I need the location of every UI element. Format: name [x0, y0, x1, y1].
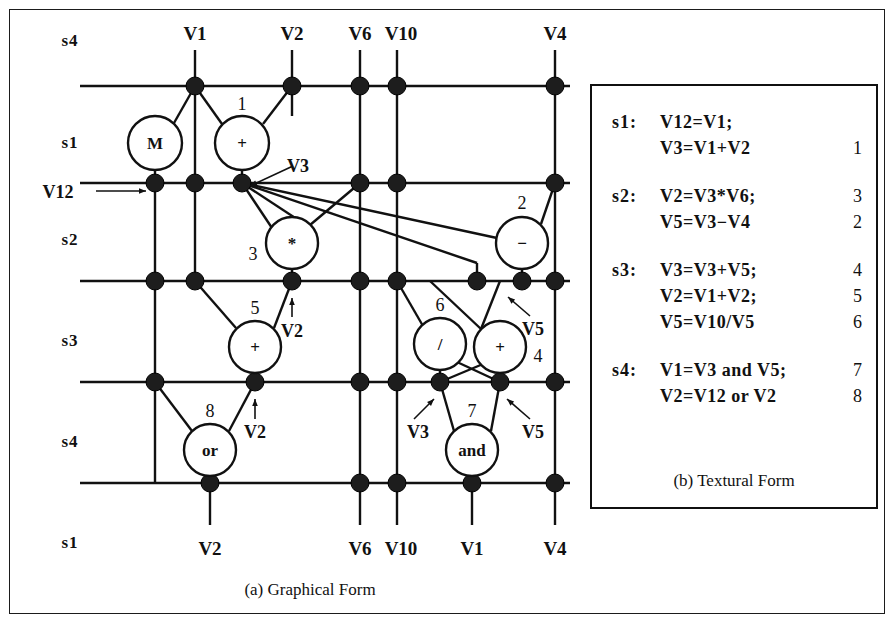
code-index-label: 6 [836, 312, 862, 333]
code-index-label: 7 [836, 360, 862, 381]
code-row: V3=V1+V21 [612, 138, 862, 164]
code-row: s3:V3=V3+V5;4 [612, 260, 862, 286]
operator-node[interactable]: and7 [446, 401, 498, 476]
code-index-label: 2 [836, 212, 862, 233]
top-column-label: V10 [385, 23, 418, 44]
code-row: s2:V2=V3*V6;3 [612, 186, 862, 212]
variable-annotation-label: V5 [522, 422, 544, 442]
bottom-column-label: V4 [543, 538, 567, 559]
code-statement: V3=V3+V5; [660, 260, 836, 281]
code-statement: V12=V1; [660, 112, 836, 133]
operator-symbol: + [250, 338, 260, 357]
stage-label-layer: s4s1s2s3s4s1 [61, 31, 78, 552]
code-group: s1:V12=V1;V3=V1+V21 [612, 112, 862, 164]
operator-symbol: + [495, 338, 505, 357]
bottom-column-label: V2 [198, 538, 221, 559]
code-listing: s1:V12=V1;V3=V1+V21s2:V2=V3*V6;3V5=V3−V4… [612, 112, 862, 434]
top-column-label: V6 [348, 23, 371, 44]
caption-textural-form: (b) Textural Form [592, 471, 876, 491]
operator-symbol: / [437, 335, 443, 354]
code-statement: V3=V1+V2 [660, 138, 836, 159]
operator-index-label: 2 [518, 193, 527, 213]
stage-label: s1 [61, 533, 78, 552]
code-index-label: 5 [836, 286, 862, 307]
top-column-label: V2 [280, 23, 303, 44]
variable-annotation-label: V12 [43, 182, 74, 202]
code-row: V2=V12 or V28 [612, 386, 862, 412]
operator-index-label: 5 [251, 298, 260, 318]
operator-symbol: + [237, 134, 247, 153]
code-index-label: 8 [836, 386, 862, 407]
operator-symbol: − [517, 234, 527, 253]
code-statement: V2=V1+V2; [660, 286, 836, 307]
top-column-label: V1 [183, 23, 206, 44]
code-stage-label: s1: [612, 112, 660, 133]
variable-annotation: V3 [407, 399, 434, 442]
bottom-column-label: V1 [460, 538, 483, 559]
code-statement: V2=V3*V6; [660, 186, 836, 207]
variable-annotation-label: V2 [281, 321, 303, 341]
operator-index-label: 3 [249, 244, 258, 264]
stage-label: s3 [61, 331, 78, 350]
code-statement: V5=V3−V4 [660, 212, 836, 233]
code-row: V5=V10/V56 [612, 312, 862, 338]
code-group: s2:V2=V3*V6;3V5=V3−V42 [612, 186, 862, 238]
code-stage-label: s3: [612, 260, 660, 281]
operator-index-label: 8 [206, 401, 215, 421]
variable-annotation-label: V5 [522, 319, 544, 339]
caption-graphical-form: (a) Graphical Form [244, 580, 375, 599]
bottom-column-label: V10 [385, 538, 418, 559]
operator-node[interactable]: M [128, 116, 182, 170]
top-column-label: V4 [543, 23, 567, 44]
top-column-label-layer: V1V2V6V10V4 [183, 23, 567, 44]
operator-symbol: * [288, 234, 297, 253]
code-statement: V5=V10/V5 [660, 312, 836, 333]
bottom-column-label-layer: V2V6V10V1V4 [198, 538, 567, 559]
operator-node[interactable]: +1 [215, 94, 269, 170]
operator-index-label: 6 [436, 295, 445, 315]
stage-label: s1 [61, 133, 78, 152]
figure-frame: M+1*3−2+5/6+4or8and7 V12V3V2V5V2V3V5 V1V… [9, 9, 885, 614]
variable-annotation-label: V2 [244, 422, 266, 442]
code-stage-label: s4: [612, 360, 660, 381]
operator-index-label: 1 [238, 94, 247, 114]
stage-label: s4 [61, 31, 78, 50]
code-row: V5=V3−V42 [612, 212, 862, 238]
operator-node[interactable]: −2 [496, 193, 548, 269]
annotation-arrowhead [252, 399, 258, 406]
code-row: V2=V1+V2;5 [612, 286, 862, 312]
code-group: s3:V3=V3+V5;4V2=V1+V2;5V5=V10/V56 [612, 260, 862, 338]
figure-page: M+1*3−2+5/6+4or8and7 V12V3V2V5V2V3V5 V1V… [0, 0, 894, 623]
code-statement: V1=V3 and V5; [660, 360, 836, 381]
variable-annotation-label: V3 [407, 422, 429, 442]
operator-node[interactable]: *3 [249, 217, 319, 269]
operator-node[interactable]: or8 [184, 401, 236, 476]
operator-symbol: M [147, 134, 163, 153]
operator-index-label: 7 [468, 401, 477, 421]
variable-annotation: V2 [244, 399, 266, 442]
code-statement: V2=V12 or V2 [660, 386, 836, 407]
code-index-label: 3 [836, 186, 862, 207]
code-stage-label: s2: [612, 186, 660, 207]
code-group: s4:V1=V3 and V5;7V2=V12 or V28 [612, 360, 862, 412]
operator-symbol: or [202, 441, 219, 460]
textual-form-panel: s1:V12=V1;V3=V1+V21s2:V2=V3*V6;3V5=V3−V4… [590, 84, 878, 509]
variable-annotation: V5 [507, 399, 544, 442]
operator-symbol: and [458, 441, 486, 460]
code-row: s4:V1=V3 and V5;7 [612, 360, 862, 386]
code-index-label: 4 [836, 260, 862, 281]
stage-label: s4 [61, 432, 78, 451]
bottom-column-label: V6 [348, 538, 371, 559]
annotation-arrowhead [139, 188, 146, 194]
operator-index-label: 4 [534, 346, 543, 366]
stage-label: s2 [61, 230, 78, 249]
code-row: s1:V12=V1; [612, 112, 862, 138]
code-index-label: 1 [836, 138, 862, 159]
variable-annotation: V12 [43, 182, 147, 202]
variable-annotation-layer: V12V3V2V5V2V3V5 [43, 156, 545, 442]
variable-annotation-label: V3 [287, 156, 309, 176]
annotation-arrowhead [289, 298, 295, 305]
operator-node[interactable]: +5 [229, 298, 281, 373]
